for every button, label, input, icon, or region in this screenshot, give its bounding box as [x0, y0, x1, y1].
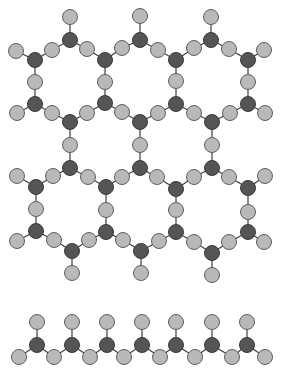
light-atom: [30, 315, 45, 330]
dark-atom: [63, 115, 78, 130]
dark-atom: [241, 181, 256, 196]
light-atom: [98, 75, 113, 90]
dark-atom: [28, 97, 43, 112]
light-atom: [116, 233, 131, 248]
light-atom: [10, 169, 25, 184]
dark-atom: [98, 53, 113, 68]
light-atom: [47, 233, 62, 248]
silicate-structure-diagram: [0, 0, 289, 375]
dark-atom: [63, 161, 78, 176]
dark-atom: [169, 97, 184, 112]
dark-atom: [204, 33, 219, 48]
dark-atom: [29, 180, 44, 195]
light-atom: [82, 233, 97, 248]
dark-atom: [100, 338, 115, 353]
light-atom: [115, 41, 130, 56]
light-atom: [222, 42, 237, 57]
dark-atom: [99, 180, 114, 195]
light-atom: [153, 350, 168, 365]
dark-atom: [65, 244, 80, 259]
light-atom: [188, 350, 203, 365]
light-atom: [151, 106, 166, 121]
light-atom: [115, 170, 130, 185]
light-atom: [100, 315, 115, 330]
light-atom: [205, 138, 220, 153]
light-atom: [83, 350, 98, 365]
dark-atom: [28, 53, 43, 68]
dark-atom: [135, 338, 150, 353]
light-atom: [63, 138, 78, 153]
dark-atom: [169, 338, 184, 353]
light-atom: [80, 106, 95, 121]
light-atom: [169, 203, 184, 218]
light-atom: [151, 43, 166, 58]
light-atom: [258, 106, 273, 121]
light-atom: [205, 315, 220, 330]
dark-atom: [133, 115, 148, 130]
light-atom: [135, 315, 150, 330]
light-atom: [81, 170, 96, 185]
dark-atom: [241, 97, 256, 112]
light-atom: [204, 10, 219, 25]
dark-atom: [99, 225, 114, 240]
light-atom: [258, 169, 273, 184]
light-atom: [45, 106, 60, 121]
light-atom: [205, 268, 220, 283]
light-atom: [240, 315, 255, 330]
light-atom: [258, 350, 273, 365]
dark-atom: [98, 96, 113, 111]
light-atom: [9, 44, 24, 59]
dark-atom: [241, 53, 256, 68]
light-atom: [133, 9, 148, 24]
dark-atom: [169, 53, 184, 68]
light-atom: [45, 43, 60, 58]
dark-atom: [241, 225, 256, 240]
light-atom: [10, 106, 25, 121]
dark-atom: [240, 338, 255, 353]
light-atom: [223, 106, 238, 121]
dark-atom: [205, 161, 220, 176]
light-atom: [99, 203, 114, 218]
light-atom: [169, 74, 184, 89]
dark-atom: [205, 338, 220, 353]
light-atom: [187, 235, 202, 250]
light-atom: [65, 315, 80, 330]
light-atom: [28, 75, 43, 90]
light-atom: [63, 10, 78, 25]
light-atom: [222, 170, 237, 185]
light-atom: [12, 350, 27, 365]
light-atom: [187, 106, 202, 121]
light-atom: [47, 350, 62, 365]
light-atom: [241, 75, 256, 90]
light-atom: [169, 315, 184, 330]
dark-atom: [30, 338, 45, 353]
dark-atom: [29, 224, 44, 239]
dark-atom: [133, 161, 148, 176]
light-atom: [241, 205, 256, 220]
light-atom: [10, 234, 25, 249]
light-atom: [65, 266, 80, 281]
dark-atom: [134, 244, 149, 259]
light-atom: [222, 235, 237, 250]
dark-atom: [205, 246, 220, 261]
dark-atom: [65, 338, 80, 353]
light-atom: [115, 105, 130, 120]
light-atom: [134, 266, 149, 281]
dark-atom: [169, 182, 184, 197]
light-atom: [152, 234, 167, 249]
dark-atom: [169, 225, 184, 240]
light-atom: [187, 41, 202, 56]
light-atom: [46, 169, 61, 184]
light-atom: [187, 170, 202, 185]
dark-atom: [205, 115, 220, 130]
light-atom: [150, 170, 165, 185]
light-atom: [80, 42, 95, 57]
light-atom: [257, 43, 272, 58]
light-atom: [133, 138, 148, 153]
dark-atom: [133, 33, 148, 48]
light-atom: [225, 350, 240, 365]
light-atom: [117, 350, 132, 365]
dark-atom: [63, 33, 78, 48]
light-atom: [29, 202, 44, 217]
light-atom: [257, 235, 272, 250]
